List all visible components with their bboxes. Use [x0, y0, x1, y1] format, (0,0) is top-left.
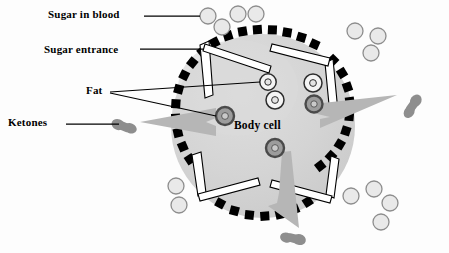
sugar-molecule [214, 19, 230, 35]
label-sugar-entrance: Sugar entrance [44, 43, 118, 55]
sugar-molecule [248, 6, 264, 22]
sugar-molecule [343, 188, 359, 204]
sugar-molecule [230, 6, 246, 22]
fat-particle-dark [306, 96, 323, 113]
diagram-canvas: Sugar in blood Sugar entrance Fat Ketone… [0, 0, 449, 253]
label-body-cell: Body cell [234, 119, 281, 131]
label-fat: Fat [86, 84, 102, 96]
sugar-molecule [347, 23, 363, 39]
sugar-molecule [366, 181, 382, 197]
ketone [279, 230, 307, 248]
fat-particle-light [260, 74, 276, 90]
body-cell-diagram [0, 0, 449, 253]
sugar-molecule [171, 197, 187, 213]
ketone [110, 116, 138, 136]
fat-particle-dark [266, 139, 284, 157]
sugar-molecule [382, 195, 398, 211]
sugar-molecule [168, 178, 184, 194]
fat-particle-light [304, 74, 322, 92]
sugar-molecule [373, 214, 389, 230]
label-sugar-in-blood: Sugar in blood [48, 8, 120, 20]
fat-particle-light [266, 91, 284, 109]
sugar-molecule [200, 8, 216, 24]
sugar-molecule [363, 45, 379, 61]
ketone [400, 92, 425, 120]
sugar-molecule [370, 28, 386, 44]
fat-particle-dark [216, 107, 234, 125]
label-ketones: Ketones [8, 116, 47, 128]
